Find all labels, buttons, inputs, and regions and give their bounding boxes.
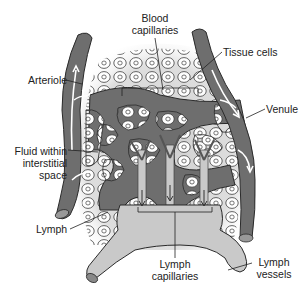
label-line: Blood <box>130 12 180 24</box>
label-blood-capillaries: Blood capillaries <box>130 12 180 36</box>
label-line: Lymph <box>250 256 298 268</box>
label-line: space <box>0 169 67 181</box>
label-line: capillaries <box>150 270 200 282</box>
label-fluid-interstitial: Fluid within interstitial space <box>0 145 67 181</box>
label-tissue-cells: Tissue cells <box>223 46 277 58</box>
label-venule: Venule <box>266 103 298 115</box>
label-line: interstitial <box>0 157 67 169</box>
leader-venule <box>246 109 265 118</box>
label-line: Lymph <box>150 258 200 270</box>
label-lymph-capillaries: Lymph capillaries <box>150 258 200 282</box>
label-arteriole: Arteriole <box>28 74 67 86</box>
label-lymph: Lymph <box>36 223 67 235</box>
label-line: Fluid within <box>0 145 67 157</box>
label-line: vessels <box>250 268 298 280</box>
label-line: capillaries <box>130 24 180 36</box>
lymph-formation-diagram: Blood capillaries Tissue cells Arteriole… <box>0 0 307 302</box>
label-lymph-vessels: Lymph vessels <box>250 256 298 280</box>
